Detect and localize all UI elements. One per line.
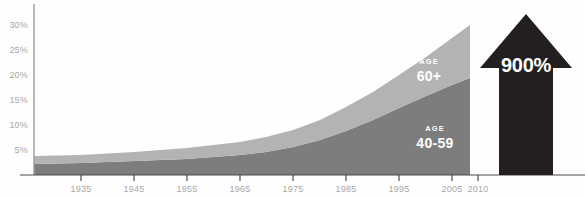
y-tick-15: 15% xyxy=(0,95,28,105)
x-tick-1955: 1955 xyxy=(167,184,207,194)
stacked-area-chart: 30% 25% 20% 15% 10% 5% 1935 1945 1955 19… xyxy=(0,0,585,198)
x-tick-1965: 1965 xyxy=(220,184,260,194)
y-tick-10: 10% xyxy=(0,120,28,130)
y-tick-20: 20% xyxy=(0,70,28,80)
x-tick-1975: 1975 xyxy=(273,184,313,194)
chart-plot-area xyxy=(0,0,585,198)
x-tick-1995: 1995 xyxy=(379,184,419,194)
x-axis-ticks xyxy=(81,175,478,181)
y-tick-30: 30% xyxy=(0,20,28,30)
x-tick-2010: 2010 xyxy=(458,184,498,194)
growth-arrow-icon xyxy=(480,14,572,175)
x-tick-1985: 1985 xyxy=(326,184,366,194)
x-tick-1935: 1935 xyxy=(61,184,101,194)
y-tick-25: 25% xyxy=(0,45,28,55)
x-tick-1945: 1945 xyxy=(114,184,154,194)
y-tick-5: 5% xyxy=(0,145,28,155)
